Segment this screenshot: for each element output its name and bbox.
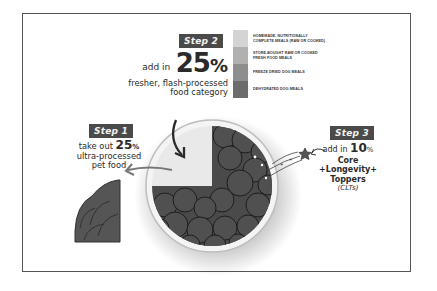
step1-number: 25 [116,138,133,152]
step3-line3: +Longevity+ [312,165,384,175]
step2-prefix: add in [142,62,170,72]
step3-line5: (CLTs) [312,184,384,194]
step1-percent: % [132,143,139,151]
step3-number: 10 [350,141,367,155]
legend-item: Store-bought raw or cooked fresh food me… [233,47,343,64]
legend-item: Dehydrated dog meals [233,81,343,98]
step3-badge: Step 3 [330,126,374,140]
step1-badge: Step 1 [89,124,133,138]
step3-prefix: add in [323,145,350,154]
step2-text: add in 25% [142,52,228,76]
legend-swatch [233,47,248,64]
legend: Homemade, nutritionally complete meals (… [233,30,343,98]
step2-badge: Step 2 [179,34,223,48]
step2-percent: % [210,55,228,76]
step2-line3: food category [128,88,228,97]
legend-label: Freeze dried dog meals [253,70,330,75]
legend-label: Store-bought raw or cooked fresh food me… [253,51,330,61]
step2-number: 25 [176,48,210,78]
legend-swatch [233,81,248,98]
legend-item: Freeze dried dog meals [233,64,343,81]
step3-line4: Toppers [312,175,384,185]
step3-percent: % [367,146,374,154]
legend-label: Homemade, nutritionally complete meals (… [253,34,330,44]
star-icon [299,148,311,160]
legend-item: Homemade, nutritionally complete meals (… [233,30,343,47]
step2-description: fresher, flash-processed food category [128,79,228,97]
step1-text: take out 25% ultra-processed pet food [68,141,150,170]
step3-text: add in 10% Core +Longevity+ Toppers (CLT… [312,144,384,194]
legend-swatch [233,64,248,81]
legend-label: Dehydrated dog meals [253,87,330,92]
removed-food-wedge [75,180,120,242]
legend-swatch [233,30,248,47]
step3-line2: Core [312,156,384,166]
step1-prefix: take out [79,141,116,151]
step1-line3: pet food [68,161,150,170]
